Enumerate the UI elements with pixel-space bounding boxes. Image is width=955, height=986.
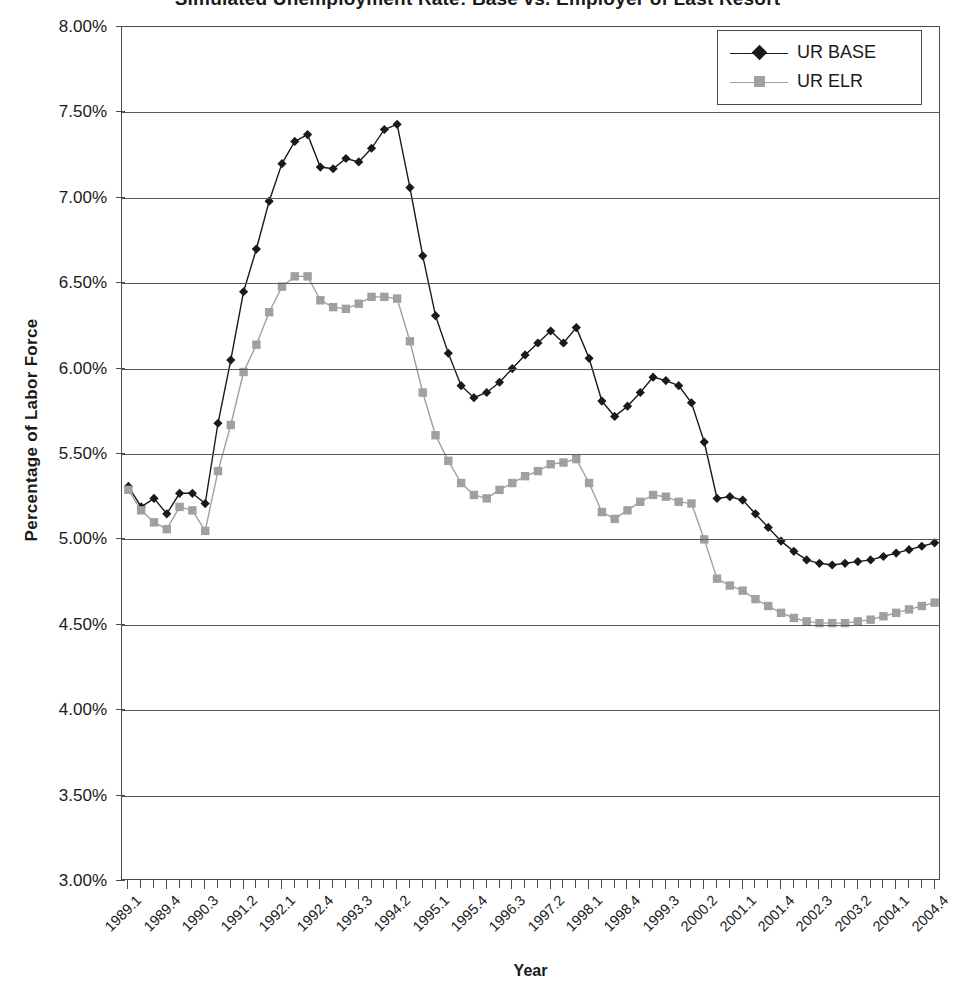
data-point — [866, 615, 874, 623]
data-point — [610, 515, 618, 523]
y-tick-label: 5.50% — [0, 445, 107, 462]
x-tick-mark — [358, 880, 359, 889]
data-point — [431, 431, 439, 439]
chart-legend: UR BASEUR ELR — [717, 30, 922, 105]
x-axis-title: Year — [121, 962, 940, 980]
x-tick-mark — [857, 880, 858, 889]
data-point — [290, 137, 299, 146]
gridline — [122, 454, 939, 455]
x-tick-mark — [140, 880, 141, 888]
x-tick-mark — [703, 880, 704, 889]
data-point — [584, 354, 593, 363]
data-point — [277, 159, 286, 168]
data-point — [508, 479, 516, 487]
x-tick-mark — [204, 880, 205, 889]
data-point — [367, 293, 375, 301]
data-point — [329, 303, 337, 311]
x-tick-mark — [678, 880, 679, 888]
data-point — [444, 349, 453, 358]
data-point — [726, 581, 734, 589]
data-point — [828, 560, 837, 569]
x-tick-mark — [345, 880, 346, 888]
gridline — [122, 625, 939, 626]
data-point — [866, 555, 875, 564]
data-point — [751, 595, 759, 603]
data-point — [712, 494, 721, 503]
gridline — [122, 283, 939, 284]
x-tick-mark — [882, 880, 883, 888]
data-point — [380, 293, 388, 301]
x-tick-mark — [243, 880, 244, 889]
data-point — [623, 506, 631, 514]
data-point — [188, 506, 196, 514]
y-tick-mark — [116, 282, 125, 283]
x-tick-mark — [588, 880, 589, 889]
y-tick-label: 6.50% — [0, 274, 107, 291]
data-point — [124, 486, 132, 494]
legend-swatch — [730, 45, 788, 61]
data-point — [406, 337, 414, 345]
x-tick-mark — [499, 880, 500, 888]
data-point — [662, 493, 670, 501]
x-tick-mark — [652, 880, 653, 888]
data-point — [534, 467, 542, 475]
diamond-marker-icon — [751, 45, 767, 61]
x-tick-mark — [447, 880, 448, 888]
data-point — [764, 602, 772, 610]
x-tick-mark — [435, 880, 436, 889]
x-tick-mark — [537, 880, 538, 888]
data-point — [393, 120, 402, 129]
data-point — [226, 355, 235, 364]
y-tick-label: 6.00% — [0, 359, 107, 376]
data-point — [636, 498, 644, 506]
y-tick-mark — [116, 197, 125, 198]
data-point — [380, 125, 389, 134]
y-tick-label: 8.00% — [0, 18, 107, 35]
data-point — [828, 619, 836, 627]
data-point — [213, 419, 222, 428]
data-point — [239, 287, 248, 296]
data-point — [892, 609, 900, 617]
x-tick-mark — [422, 880, 423, 888]
data-point — [150, 518, 158, 526]
x-tick-mark — [383, 880, 384, 888]
data-point — [930, 598, 938, 606]
x-tick-mark — [780, 880, 781, 889]
series-line — [128, 276, 934, 623]
gridline — [122, 198, 939, 199]
x-tick-mark — [793, 880, 794, 888]
gridline — [122, 796, 939, 797]
square-marker-icon — [754, 76, 765, 87]
data-point — [790, 614, 798, 622]
gridline — [122, 369, 939, 370]
data-point — [495, 486, 503, 494]
data-point — [661, 376, 670, 385]
legend-item-ur-base[interactable]: UR BASE — [718, 38, 921, 67]
x-tick-mark — [524, 880, 525, 888]
data-point — [700, 437, 709, 446]
plot-area — [121, 26, 940, 880]
x-tick-mark — [460, 880, 461, 888]
series-ur-base — [124, 120, 939, 570]
data-point — [316, 296, 324, 304]
data-point — [470, 491, 478, 499]
data-point — [227, 421, 235, 429]
legend-item-ur-elr[interactable]: UR ELR — [718, 67, 921, 96]
data-point — [598, 508, 606, 516]
y-tick-mark — [116, 368, 125, 369]
x-tick-mark — [179, 880, 180, 888]
x-tick-mark — [371, 880, 372, 888]
data-point — [175, 503, 183, 511]
data-point — [163, 525, 171, 533]
x-tick-mark — [319, 880, 320, 889]
x-tick-mark — [754, 880, 755, 888]
data-point — [777, 609, 785, 617]
data-point — [342, 305, 350, 313]
data-point — [252, 340, 260, 348]
x-tick-mark — [742, 880, 743, 889]
data-point — [546, 460, 554, 468]
data-point — [572, 455, 580, 463]
data-point — [201, 527, 209, 535]
gridline — [122, 112, 939, 113]
data-point — [457, 479, 465, 487]
